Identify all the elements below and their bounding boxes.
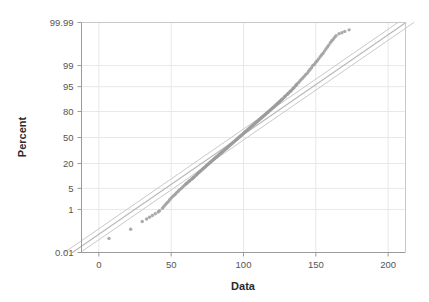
x-tick-label: 100 — [236, 259, 252, 270]
x-axis-title: Data — [231, 280, 256, 292]
y-tick-label: 50 — [63, 132, 74, 143]
y-tick-label: 0.01 — [55, 247, 74, 258]
x-tick-label: 200 — [380, 259, 396, 270]
y-tick-label: 99.99 — [50, 17, 74, 28]
probability-plot: 050100150200 0.0115205080959999.99 Data … — [0, 0, 429, 302]
chart-canvas: 050100150200 0.0115205080959999.99 Data … — [0, 0, 429, 302]
y-tick-label: 95 — [63, 81, 74, 92]
x-tick-label: 150 — [308, 259, 324, 270]
y-axis-title: Percent — [16, 116, 28, 157]
x-tick-label: 50 — [166, 259, 177, 270]
x-tick-label: 0 — [96, 259, 101, 270]
y-tick-label: 1 — [68, 204, 73, 215]
y-tick-label: 99 — [63, 60, 74, 71]
y-tick-label: 80 — [63, 106, 74, 117]
y-tick-label: 20 — [63, 158, 74, 169]
y-tick-label: 5 — [68, 183, 73, 194]
